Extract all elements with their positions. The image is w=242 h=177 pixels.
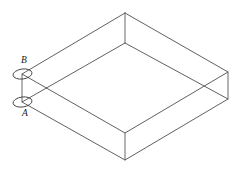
figure-container: B A (0, 0, 242, 177)
point-label-b: B (21, 56, 27, 66)
isometric-slab-diagram (0, 0, 242, 177)
point-label-a: A (22, 109, 28, 119)
